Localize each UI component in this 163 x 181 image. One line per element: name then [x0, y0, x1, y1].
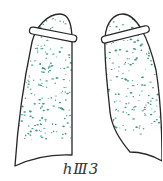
opacity-dot: [156, 119, 158, 120]
opacity-dot: [140, 50, 142, 51]
opacity-dot: [160, 71, 161, 73]
opacity-dot: [33, 21, 34, 23]
opacity-dot: [67, 122, 69, 123]
opacity-dot: [38, 19, 40, 21]
opacity-dot: [59, 21, 61, 22]
opacity-dot: [60, 47, 63, 48]
opacity-dot: [126, 112, 127, 113]
opacity-dot: [115, 94, 116, 95]
opacity-dot: [28, 125, 30, 126]
opacity-dot: [40, 124, 42, 125]
opacity-dot: [157, 18, 159, 19]
opacity-dot: [26, 82, 28, 83]
opacity-dot: [46, 87, 47, 88]
opacity-dot: [161, 18, 163, 20]
opacity-dot: [23, 111, 26, 112]
opacity-dot: [128, 63, 129, 64]
left-clavicle-band: [29, 26, 77, 42]
opacity-dot: [66, 93, 69, 95]
opacity-dot: [153, 51, 154, 53]
opacity-dot: [33, 80, 34, 81]
opacity-dot: [150, 104, 152, 105]
figure-label: hⅢ3: [0, 160, 162, 178]
opacity-dot: [115, 26, 118, 27]
opacity-dot: [27, 133, 29, 134]
opacity-dot: [143, 109, 146, 110]
opacity-dot: [116, 76, 119, 77]
opacity-dot: [21, 55, 23, 57]
opacity-dot: [113, 21, 115, 22]
opacity-dot: [123, 73, 124, 74]
opacity-dot: [135, 126, 137, 128]
opacity-dot: [29, 111, 32, 113]
opacity-dot: [133, 107, 135, 108]
opacity-dot: [124, 107, 127, 108]
opacity-dot: [17, 49, 19, 50]
opacity-dot: [121, 78, 123, 79]
opacity-dot: [15, 36, 17, 37]
opacity-dot: [118, 55, 119, 56]
opacity-dot: [27, 80, 30, 81]
opacity-dot: [30, 89, 31, 91]
opacity-dot: [105, 21, 107, 23]
opacity-dot: [39, 63, 41, 65]
opacity-dot: [109, 30, 110, 31]
opacity-dot: [116, 101, 117, 102]
opacity-dot: [25, 54, 26, 55]
opacity-dot: [14, 88, 17, 89]
opacity-dot: [17, 62, 19, 64]
lung-diagram: [0, 0, 162, 181]
opacity-dot: [151, 108, 152, 109]
opacity-dot: [63, 87, 65, 88]
opacity-dot: [31, 128, 33, 129]
opacity-dot: [24, 22, 25, 23]
opacity-dot: [36, 124, 38, 126]
opacity-dot: [144, 113, 145, 114]
opacity-dot: [145, 104, 147, 105]
opacity-dot: [149, 81, 152, 82]
opacity-dot: [143, 128, 145, 130]
opacity-dot: [150, 60, 151, 62]
opacity-dot: [20, 78, 22, 79]
opacity-dot: [64, 118, 66, 120]
opacity-dot: [105, 44, 108, 45]
opacity-dot: [125, 129, 127, 130]
opacity-dot: [44, 45, 45, 47]
opacity-dot: [123, 125, 124, 126]
opacity-dot: [115, 117, 117, 118]
opacity-dot: [56, 56, 57, 57]
opacity-dot: [151, 64, 153, 66]
opacity-dot: [148, 95, 150, 96]
opacity-dot: [52, 27, 54, 28]
opacity-dot: [136, 57, 138, 59]
opacity-dot: [48, 71, 49, 73]
opacity-dot: [113, 120, 114, 121]
opacity-dot: [105, 77, 107, 78]
opacity-dot: [40, 135, 43, 136]
opacity-dot: [43, 110, 45, 112]
opacity-dot: [155, 21, 157, 22]
opacity-dot: [132, 52, 133, 53]
opacity-dot: [40, 131, 42, 132]
opacity-dot: [68, 54, 71, 55]
opacity-dot: [141, 91, 144, 92]
opacity-dot: [31, 93, 33, 94]
opacity-dot: [159, 90, 161, 92]
opacity-dot: [46, 20, 48, 21]
opacity-dot: [147, 102, 149, 103]
opacity-dot: [65, 133, 67, 135]
opacity-dot: [133, 130, 134, 131]
opacity-dot: [127, 58, 129, 59]
opacity-dot: [69, 92, 71, 93]
opacity-dot: [55, 124, 57, 125]
opacity-dot: [25, 97, 26, 99]
opacity-dot: [25, 135, 26, 137]
opacity-dot: [15, 55, 17, 56]
opacity-dot: [35, 48, 36, 49]
opacity-dot: [158, 70, 161, 71]
opacity-dot: [30, 135, 32, 136]
opacity-dot: [109, 26, 112, 27]
opacity-dot: [15, 47, 16, 48]
opacity-dot: [53, 131, 54, 133]
opacity-dot: [62, 134, 64, 135]
